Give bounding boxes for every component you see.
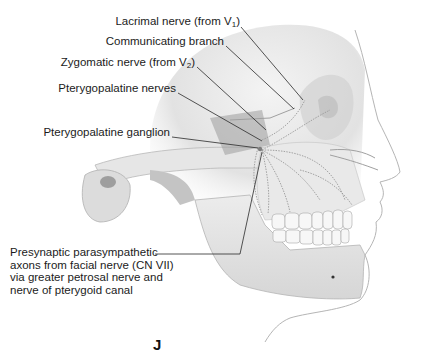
pterygopalatine-ganglion-marker [258, 147, 262, 151]
panel-letter: J [153, 336, 161, 353]
label-pterygopalatine-ganglion: Pterygopalatine ganglion [43, 126, 170, 139]
skull-illustration [0, 0, 423, 358]
anatomy-figure: Lacrimal nerve (from V1) Communicating b… [0, 0, 423, 358]
label-communicating-branch: Communicating branch [106, 35, 224, 48]
teeth [272, 210, 352, 245]
label-presynaptic-parasympathetic: Presynaptic parasympathetic axons from f… [10, 246, 174, 296]
temporomandibular-joint [82, 170, 195, 222]
label-lacrimal-nerve: Lacrimal nerve (from V1) [115, 15, 240, 28]
maxilla [257, 142, 365, 220]
label-pterygopalatine-nerves: Pterygopalatine nerves [58, 82, 176, 95]
label-zygomatic-nerve: Zygomatic nerve (from V2) [61, 56, 195, 69]
